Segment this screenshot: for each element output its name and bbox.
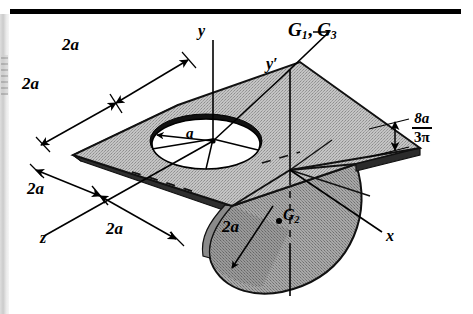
centroid-label-g2: G2 — [283, 207, 300, 225]
centroid-label-g1-g3: G1, G3 — [288, 20, 337, 42]
dim-label-hole-radius: a — [186, 126, 194, 141]
offset-den-symbol: π — [422, 129, 430, 145]
g2-base: G — [283, 206, 295, 223]
offset-numerator: 8a — [412, 110, 432, 126]
dim-top-left-outer — [41, 103, 116, 145]
axis-label-y: y — [198, 23, 205, 39]
dim-tick-bottom-mid — [92, 186, 108, 205]
g3-base: G — [317, 19, 331, 40]
dim-tick-top-mid — [110, 94, 122, 113]
dim-label-centroid-offset: 8a 3π — [412, 110, 432, 145]
axis-label-x: x — [386, 228, 394, 244]
offset-den-coef: 3 — [414, 129, 422, 145]
dim-label-bottom-left-outer: 2a — [27, 180, 44, 197]
g2-point — [276, 218, 282, 224]
dim-label-top-left-inner: 2a — [62, 36, 79, 53]
dim-bottom-left-outer — [36, 170, 100, 196]
axis-label-z: z — [40, 230, 46, 246]
dim-label-flange-depth: 2a — [222, 218, 239, 235]
figure-container: 2a 2a 2a 2a 2a a y y′ x z G1, G3 G2 8a 3… — [0, 0, 473, 314]
dim-label-bottom-left-inner: 2a — [106, 220, 123, 237]
axis-label-y-prime: y′ — [266, 56, 278, 72]
dim-top-left-inner — [116, 60, 188, 103]
hole-interior — [152, 119, 260, 169]
g1-base: G — [288, 19, 302, 40]
dim-label-top-left-outer: 2a — [22, 75, 39, 92]
ext-bottom-a — [30, 164, 44, 178]
offset-denominator: 3π — [412, 129, 432, 145]
g-separator: , — [308, 19, 318, 40]
ext-top-a — [36, 137, 50, 152]
ext-bottom-b — [170, 232, 184, 246]
g2-sub: 2 — [295, 214, 300, 225]
g3-sub: 3 — [331, 29, 337, 42]
ext-top-b — [182, 52, 196, 68]
